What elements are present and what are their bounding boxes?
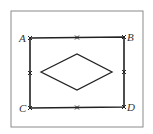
- label-d: D: [126, 101, 135, 113]
- label-a: A: [18, 32, 26, 44]
- label-c: C: [19, 102, 27, 114]
- rhombus: [41, 54, 112, 90]
- diagram-canvas: A B C D: [0, 0, 153, 134]
- label-b: B: [127, 31, 134, 43]
